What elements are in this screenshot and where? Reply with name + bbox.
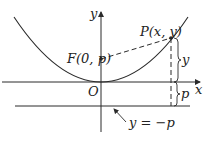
- y-axis-label: y: [89, 6, 98, 21]
- origin-label: O: [88, 84, 99, 99]
- focus-label: F(0, p): [66, 51, 111, 66]
- point-label: P(x, y): [139, 24, 182, 39]
- directrix-pointer: [114, 109, 126, 122]
- vertical-distance-label: y: [181, 52, 190, 67]
- brace-y: [174, 38, 181, 82]
- parabola-diagram: y x O F(0, p) P(x, y) y p y = −p: [0, 0, 212, 144]
- brace-p: [174, 82, 180, 106]
- directrix-label: y = −p: [128, 115, 175, 130]
- x-axis-label: x: [195, 82, 203, 97]
- focus-to-point-segment: [101, 38, 171, 59]
- offset-label: p: [181, 86, 190, 101]
